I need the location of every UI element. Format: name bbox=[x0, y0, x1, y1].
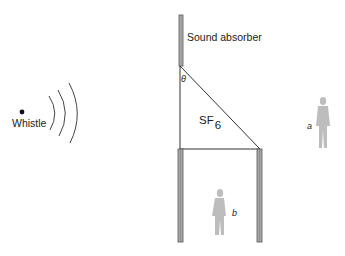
wave-arc-1 bbox=[49, 96, 55, 130]
angle-theta-label: θ bbox=[181, 74, 186, 84]
listener-a: a bbox=[307, 97, 330, 148]
sf6-prism bbox=[180, 66, 260, 149]
whistle-source: Whistle bbox=[12, 110, 47, 129]
prism-hypotenuse bbox=[180, 66, 260, 149]
sf6-subscript: 6 bbox=[215, 119, 221, 131]
sound-prism-diagram: Whistle Sound absorber θ SF6 a b bbox=[0, 0, 345, 256]
listener-b-label: b bbox=[232, 208, 237, 218]
whistle-label: Whistle bbox=[12, 117, 47, 129]
whistle-dot bbox=[20, 110, 25, 115]
sf6-label: SF6 bbox=[199, 114, 221, 131]
wave-arc-3 bbox=[69, 83, 77, 143]
listener-a-label: a bbox=[307, 121, 312, 131]
sound-waves bbox=[49, 83, 77, 143]
wave-arc-2 bbox=[58, 90, 65, 136]
sound-absorber: Sound absorber bbox=[179, 15, 262, 66]
listener-b: b bbox=[212, 189, 237, 235]
absorber-label: Sound absorber bbox=[187, 31, 262, 43]
